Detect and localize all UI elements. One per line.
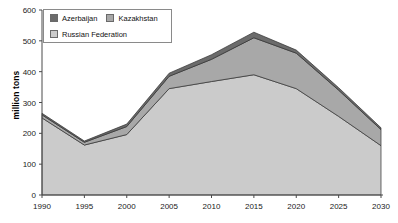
- y-axis-title-text: million tons: [11, 71, 21, 120]
- y-tick-label: 100: [23, 160, 37, 169]
- x-tick-label: 2015: [245, 202, 263, 211]
- stacked-area-chart: 199019952000200520102015202020252030 010…: [0, 0, 398, 223]
- legend-item-russian-federation[interactable]: Russian Federation: [50, 30, 127, 39]
- y-tick-label: 200: [23, 129, 37, 138]
- y-tick-label: 300: [23, 99, 37, 108]
- x-tick-label: 2000: [118, 202, 136, 211]
- legend-label-russian-federation: Russian Federation: [62, 30, 127, 39]
- x-tick-labels: 199019952000200520102015202020252030: [33, 202, 390, 211]
- x-tick-label: 2005: [160, 202, 178, 211]
- chart-legend: Azerbaijan Kazakhstan Russian Federation: [43, 9, 172, 43]
- y-tick-label: 500: [23, 37, 37, 46]
- legend-label-kazakhstan: Kazakhstan: [118, 14, 157, 23]
- y-tick-label: 600: [23, 6, 37, 15]
- y-axis-title: million tons: [5, 55, 23, 135]
- legend-item-kazakhstan[interactable]: Kazakhstan: [106, 14, 157, 23]
- y-tick-label: 0: [32, 191, 37, 200]
- x-tick-label: 2010: [203, 202, 221, 211]
- x-tick-label: 1995: [75, 202, 93, 211]
- legend-row-1: Azerbaijan Kazakhstan: [44, 10, 171, 26]
- legend-swatch-azerbaijan: [50, 14, 58, 22]
- y-tick-label: 400: [23, 68, 37, 77]
- legend-row-2: Russian Federation: [44, 26, 171, 42]
- legend-swatch-kazakhstan: [106, 14, 114, 22]
- legend-item-azerbaijan[interactable]: Azerbaijan: [50, 14, 97, 23]
- x-tick-label: 1990: [33, 202, 51, 211]
- y-tick-labels: 0100200300400500600: [23, 6, 37, 200]
- x-tick-label: 2020: [287, 202, 305, 211]
- area-series-group: [42, 32, 381, 195]
- legend-label-azerbaijan: Azerbaijan: [62, 14, 97, 23]
- x-tick-label: 2030: [372, 202, 390, 211]
- legend-swatch-russian-federation: [50, 30, 58, 38]
- x-tick-label: 2025: [330, 202, 348, 211]
